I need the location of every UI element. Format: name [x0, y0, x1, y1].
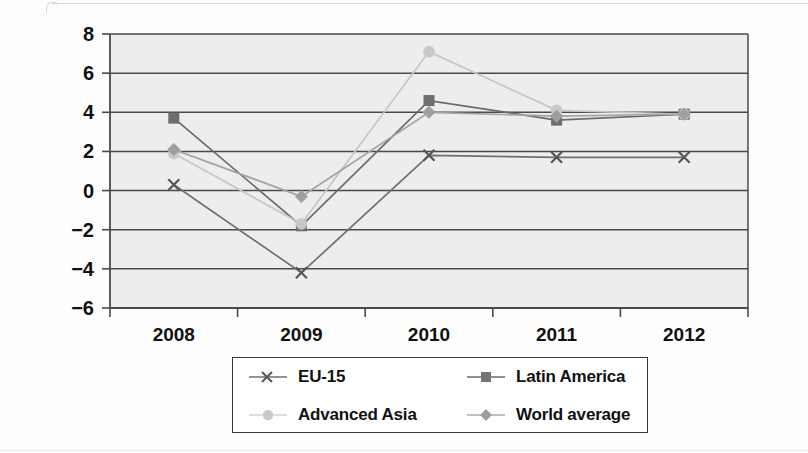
svg-text:2010: 2010 — [408, 324, 450, 345]
svg-text:−4: −4 — [71, 258, 95, 280]
svg-text:2012: 2012 — [663, 324, 705, 345]
legend-item-world-average[interactable]: World average — [451, 396, 649, 434]
svg-text:−6: −6 — [71, 297, 94, 319]
square-marker-icon — [465, 368, 507, 386]
svg-text:2011: 2011 — [536, 324, 578, 345]
x-marker-icon — [247, 368, 289, 386]
legend-label-latin-america: Latin America — [516, 367, 625, 387]
svg-text:2: 2 — [83, 140, 94, 162]
x-axis-labels: 20082009201020112012 — [153, 324, 706, 345]
legend-item-eu-15[interactable]: EU-15 — [233, 358, 451, 396]
x-axis-ticks — [110, 308, 748, 317]
svg-text:6: 6 — [83, 62, 94, 84]
circle-marker-icon — [247, 406, 289, 424]
diamond-marker-icon — [465, 406, 507, 424]
chart-legend: EU-15 Latin America Advanced Asia — [232, 357, 648, 433]
y-axis-labels: 86420−2−4−6 — [71, 23, 95, 319]
y-axis-ticks — [102, 34, 110, 308]
legend-label-advanced-asia: Advanced Asia — [298, 405, 417, 425]
chart-figure: 86420−2−4−6 20082009201020112012 EU-15 L… — [0, 0, 808, 453]
legend-label-eu-15: EU-15 — [298, 367, 345, 387]
legend-item-latin-america[interactable]: Latin America — [451, 358, 649, 396]
svg-text:0: 0 — [83, 180, 94, 202]
legend-item-advanced-asia[interactable]: Advanced Asia — [233, 396, 451, 434]
svg-text:2009: 2009 — [280, 324, 322, 345]
svg-text:4: 4 — [83, 101, 95, 123]
svg-text:2008: 2008 — [153, 324, 195, 345]
legend-label-world-average: World average — [516, 405, 630, 425]
svg-text:8: 8 — [83, 23, 94, 45]
svg-text:−2: −2 — [71, 219, 94, 241]
